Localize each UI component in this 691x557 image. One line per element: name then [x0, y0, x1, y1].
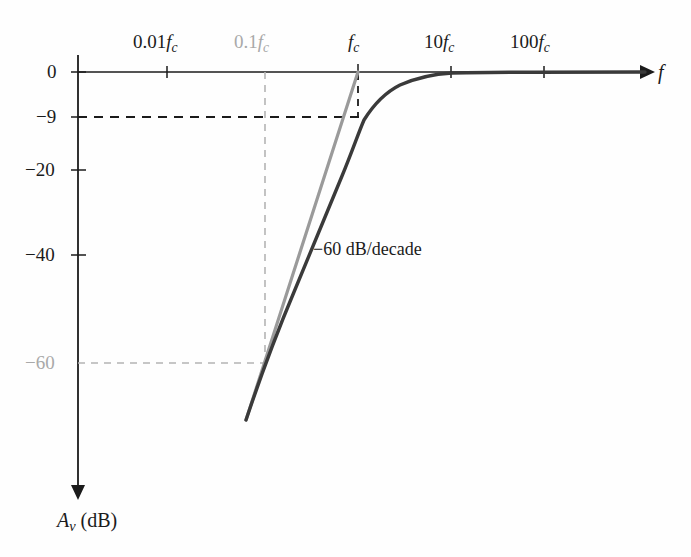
plot-canvas — [0, 0, 691, 557]
response-curve — [246, 72, 645, 420]
x-tick-sub: c — [544, 40, 550, 55]
y-axis-label-unit: (dB) — [81, 509, 118, 531]
x-tick-prefix: 0.1 — [234, 31, 258, 52]
y-tick-label-minus20: −20 — [25, 160, 55, 179]
bode-plot-figure: 0.01fc 0.1fc fc 10fc 100fc 0 −9 −20 −40 … — [0, 0, 691, 557]
y-tick-label-0: 0 — [47, 62, 57, 81]
y-axis — [71, 55, 85, 500]
x-tick-prefix: 100 — [510, 31, 539, 52]
x-tick-label-100fc: 100fc — [510, 32, 550, 55]
y-axis-label-main: A — [57, 509, 69, 531]
x-tick-label-10fc: 10fc — [424, 32, 454, 55]
x-axis-label-f: f — [658, 62, 664, 82]
y-tick-label-minus60: −60 — [25, 353, 55, 372]
x-tick-label-0.1fc: 0.1fc — [234, 32, 269, 55]
x-tick-label-0.01fc: 0.01fc — [133, 32, 178, 55]
slope-annotation: −60 dB/decade — [313, 240, 422, 258]
x-tick-prefix: 10 — [424, 31, 443, 52]
x-tick-label-fc: fc — [348, 32, 359, 55]
x-tick-sub: c — [448, 40, 454, 55]
y-tick-label-minus40: −40 — [25, 245, 55, 264]
y-axis-label-av-db: Av (dB) — [57, 510, 117, 533]
x-tick-sub: c — [263, 40, 269, 55]
x-tick-prefix: 0.01 — [133, 31, 166, 52]
x-tick-sub: c — [353, 40, 359, 55]
y-tick-label-minus9: −9 — [36, 107, 56, 126]
x-tick-sub: c — [172, 40, 178, 55]
